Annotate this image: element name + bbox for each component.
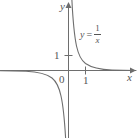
equals-sign: = <box>86 30 92 40</box>
function-graph-figure: y x 1 1 0 y = 1 x <box>0 0 137 138</box>
graph-canvas <box>0 0 137 138</box>
x-axis-label: x <box>127 72 132 83</box>
y-axis-label: y <box>60 1 65 12</box>
origin-label: 0 <box>59 74 65 85</box>
fraction-numerator: 1 <box>94 24 101 34</box>
equation-left-side: y <box>80 30 84 40</box>
fraction-one-over-x: 1 x <box>94 24 101 45</box>
equation-annotation: y = 1 x <box>80 24 101 45</box>
curve-branch-negative <box>0 71 66 138</box>
fraction-denominator: x <box>95 35 101 45</box>
y-tick-label-1: 1 <box>54 50 60 61</box>
y-axis-arrowhead <box>66 2 72 8</box>
x-tick-label-1: 1 <box>83 75 89 86</box>
